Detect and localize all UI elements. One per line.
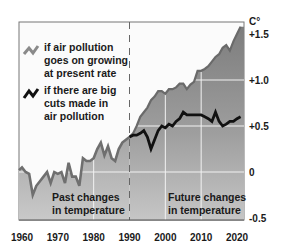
y-tick-label: +0.5 (249, 121, 269, 132)
y-tick-label: -0.5 (249, 213, 267, 224)
legend-label-growing-line1: if air pollution (44, 41, 113, 53)
y-axis-unit: C° (249, 16, 260, 27)
annotation-past-line1: Past changes (52, 191, 120, 203)
x-tick-label: 2010 (190, 232, 213, 243)
legend-label-cuts-line3: air pollution (44, 110, 104, 122)
x-tick-labels: 1960197019801990200020102020 (11, 232, 249, 243)
annotation-future-line2: in temperature (168, 204, 241, 216)
x-tick-label: 1970 (47, 232, 70, 243)
annotation-past-line2: in temperature (52, 204, 125, 216)
annotation-future-line1: Future changes (168, 191, 246, 203)
legend-label-growing-line2: goes on growing (44, 54, 128, 66)
x-tick-label: 2000 (154, 232, 177, 243)
legend-label-cuts-line1: if there are big (44, 84, 116, 96)
y-tick-label: +1.0 (249, 75, 269, 86)
temperature-chart: if air pollution goes on growing at pres… (0, 0, 282, 248)
legend-label-growing-line3: at present rate (44, 67, 117, 79)
x-tick-label: 1990 (118, 232, 141, 243)
y-tick-labels: +1.5+1.0+0.50-0.5 (249, 29, 269, 224)
x-tick-label: 1960 (11, 232, 34, 243)
y-tick-label: 0 (249, 167, 255, 178)
y-tick-label: +1.5 (249, 29, 269, 40)
x-tick-label: 2020 (226, 232, 249, 243)
legend-label-cuts-line2: cuts made in (44, 97, 108, 109)
x-tick-label: 1980 (83, 232, 106, 243)
